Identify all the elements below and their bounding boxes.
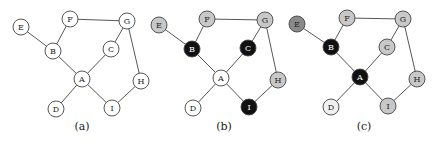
edge-f-g	[70, 19, 127, 21]
node-label: H	[138, 77, 145, 86]
node-e: E	[289, 16, 305, 32]
panel-caption: (a)	[74, 120, 89, 133]
panel-caption: (c)	[357, 120, 372, 133]
node-label: I	[386, 102, 389, 111]
node-b: B	[323, 39, 339, 55]
node-label: A	[78, 75, 85, 84]
node-d: D	[323, 99, 339, 115]
node-h: H	[409, 71, 425, 87]
node-label: D	[328, 103, 334, 112]
node-a: A	[352, 69, 368, 85]
node-label: C	[245, 44, 251, 53]
node-c: C	[240, 40, 256, 56]
graph-figure: EFGBCAHDI(a) EFGBCAHDI(b) EFGBCAHDI(c)	[0, 0, 439, 148]
node-label: I	[110, 104, 113, 113]
edge-g-h	[403, 19, 417, 79]
node-label: H	[414, 75, 421, 84]
node-b: B	[184, 41, 200, 57]
node-i: I	[104, 100, 120, 116]
node-label: B	[189, 45, 195, 54]
node-label: I	[247, 103, 250, 112]
panel-caption: (b)	[216, 120, 232, 133]
node-label: D	[53, 105, 59, 114]
node-g: G	[119, 13, 135, 29]
node-label: A	[217, 74, 224, 83]
panel-a: EFGBCAHDI(a)	[13, 11, 149, 133]
node-label: C	[108, 45, 114, 54]
node-d: D	[48, 101, 64, 117]
node-d: D	[185, 100, 201, 116]
node-c: C	[379, 39, 395, 55]
node-label: E	[156, 21, 162, 30]
node-e: E	[13, 19, 29, 35]
edge-g-h	[265, 20, 278, 80]
node-label: H	[275, 76, 282, 85]
node-i: I	[380, 98, 396, 114]
node-label: B	[50, 47, 56, 56]
node-h: H	[133, 73, 149, 89]
node-label: D	[190, 104, 196, 113]
node-label: G	[262, 16, 268, 25]
node-i: I	[241, 99, 257, 115]
node-label: E	[294, 20, 300, 29]
node-label: A	[356, 73, 363, 82]
node-a: A	[74, 71, 90, 87]
node-f: F	[199, 11, 215, 27]
node-c: C	[103, 41, 119, 57]
node-e: E	[151, 17, 167, 33]
node-label: B	[328, 43, 334, 52]
node-label: G	[400, 15, 406, 24]
node-label: F	[204, 15, 210, 24]
node-f: F	[339, 10, 355, 26]
panel-c: EFGBCAHDI(c)	[289, 10, 425, 133]
node-label: F	[67, 15, 73, 24]
node-label: F	[344, 14, 350, 23]
panel-b: EFGBCAHDI(b)	[151, 11, 286, 133]
node-b: B	[45, 43, 61, 59]
node-a: A	[213, 70, 229, 86]
node-label: G	[124, 17, 130, 26]
node-g: G	[395, 11, 411, 27]
edge-g-h	[127, 21, 141, 81]
node-label: E	[18, 23, 24, 32]
edge-f-g	[207, 19, 265, 20]
node-g: G	[257, 12, 273, 28]
node-f: F	[62, 11, 78, 27]
node-label: C	[384, 43, 390, 52]
node-h: H	[270, 72, 286, 88]
